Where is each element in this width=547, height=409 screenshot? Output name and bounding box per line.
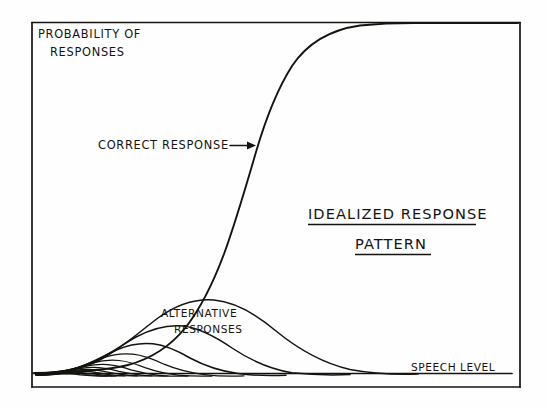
correct-response-curve xyxy=(34,23,518,373)
y-axis-label-line2: RESPONSES xyxy=(50,45,125,59)
alternative-responses-label-line2: RESPONSES xyxy=(174,323,243,335)
title-line-2: PATTERN xyxy=(355,235,427,252)
correct-response-leader xyxy=(230,142,256,150)
correct-response-label: CORRECT RESPONSE xyxy=(98,138,229,152)
title-line-1: IDEALIZED RESPONSE xyxy=(308,205,488,222)
idealized-response-pattern-figure: PROBABILITY OF RESPONSES CORRECT RESPONS… xyxy=(0,0,547,409)
alternative-responses-label-line1: ALTERNATIVE xyxy=(161,307,237,319)
figure-canvas: PROBABILITY OF RESPONSES CORRECT RESPONS… xyxy=(0,0,547,409)
y-axis-label-line1: PROBABILITY OF xyxy=(38,27,141,41)
right-arrow-icon xyxy=(247,142,256,150)
x-axis-label: SPEECH LEVEL xyxy=(411,361,495,373)
